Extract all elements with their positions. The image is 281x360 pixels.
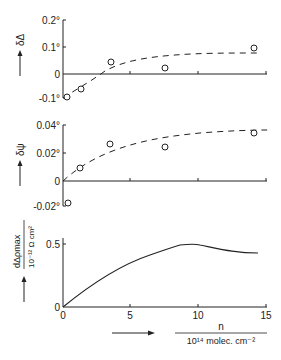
data-point <box>64 94 70 100</box>
panel-delta: 0.2° 0.1° 0 -0.1° δΔ <box>15 15 267 104</box>
xtick-label: 15 <box>260 310 272 321</box>
data-point <box>107 141 113 147</box>
svg-text:dΔρmax: dΔρmax <box>12 234 22 268</box>
svg-text:10¹⁴ molec. cm⁻²: 10¹⁴ molec. cm⁻² <box>187 336 255 346</box>
ylabel-psi: δψ <box>15 143 26 186</box>
data-point <box>162 65 168 71</box>
panel-psi: 0.04° 0.02° 0 -0.02° δψ <box>15 120 268 212</box>
svg-text:10⁻¹² Ω cm²: 10⁻¹² Ω cm² <box>27 226 36 268</box>
figure: 0.2° 0.1° 0 -0.1° δΔ 0.04° 0.02° 0 -0.02… <box>0 0 281 360</box>
fit-curve-dashed <box>63 130 268 181</box>
fit-curve-dashed <box>63 53 258 98</box>
ytick-label: 0.04° <box>37 120 60 131</box>
x-axis-title: n 10¹⁴ molec. cm⁻² <box>112 321 267 346</box>
data-point <box>251 45 257 51</box>
data-point <box>108 59 114 65</box>
ytick-label: 0.2° <box>42 15 60 26</box>
data-point <box>251 130 257 136</box>
xtick-label: 5 <box>127 310 133 321</box>
svg-text:δψ: δψ <box>15 143 26 156</box>
ytick-label: 0.5 <box>46 239 60 250</box>
ytick-label: 0 <box>54 69 60 80</box>
ytick-label: -0.02° <box>33 201 60 212</box>
ytick-label: 0.1° <box>42 42 60 53</box>
data-point <box>65 200 71 206</box>
svg-text:δΔ: δΔ <box>15 33 26 46</box>
data-point <box>77 165 83 171</box>
ytick-label: 0 <box>54 176 60 187</box>
svg-text:n: n <box>218 321 224 332</box>
panel-rho: 0.5 0 0 5 10 15 dΔρmax 10⁻¹² Ω cm² <box>12 220 272 321</box>
rho-curve <box>63 244 258 307</box>
xtick-label: 0 <box>60 310 66 321</box>
xtick-label: 10 <box>192 310 204 321</box>
ylabel-rho: dΔρmax 10⁻¹² Ω cm² <box>12 220 36 302</box>
ylabel-delta: δΔ <box>15 33 26 76</box>
data-point <box>162 144 168 150</box>
ytick-label: 0.02° <box>37 148 60 159</box>
data-point <box>78 86 84 92</box>
ytick-label: -0.1° <box>39 93 60 104</box>
